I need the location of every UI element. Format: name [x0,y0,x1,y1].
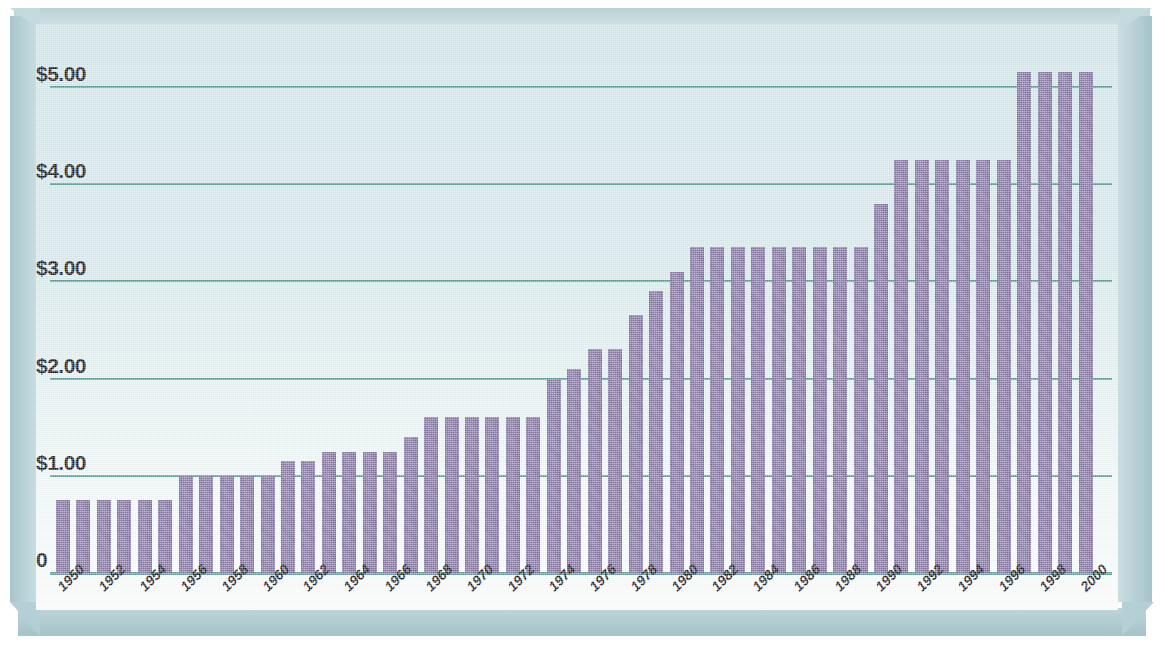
bar [506,417,520,573]
bar [915,160,929,573]
bar [240,476,254,573]
bar [261,476,275,573]
frame-bevel-right [1118,16,1152,602]
bar [445,417,459,573]
bar [97,500,111,573]
bar [874,204,888,573]
bar [608,349,622,573]
bar [997,160,1011,573]
bar [424,417,438,573]
bar [792,247,806,573]
bar [281,461,295,573]
bar [710,247,724,573]
bar [485,417,499,573]
bar [588,349,602,573]
bar [342,452,356,574]
bar [833,247,847,573]
bar [1058,72,1072,573]
bar [363,452,377,574]
bar [813,247,827,573]
bar [894,160,908,573]
bar [956,160,970,573]
bar [649,291,663,573]
chart-frame: $5.00$4.00$3.00$2.00$1.000 1950195219541… [0,8,1164,642]
bar [138,500,152,573]
bar [383,452,397,574]
bar [547,379,561,573]
bar [772,247,786,573]
bar [179,476,193,573]
bar [1017,72,1031,573]
bars-group [36,24,1118,610]
bar [526,417,540,573]
bar [1038,72,1052,573]
chart-plot-area: $5.00$4.00$3.00$2.00$1.000 1950195219541… [36,24,1118,610]
bar [301,461,315,573]
bar [935,160,949,573]
bar [690,247,704,573]
bar [158,500,172,573]
bar [854,247,868,573]
bar [117,500,131,573]
bar [731,247,745,573]
bar [76,500,90,573]
bar [322,452,336,574]
bar [220,476,234,573]
bar [670,272,684,573]
bar [976,160,990,573]
frame-bevel-left [10,16,36,602]
bar [56,500,70,573]
bar [465,417,479,573]
bar [751,247,765,573]
frame-bevel-bottom [18,608,1146,636]
bar [404,437,418,573]
bar [199,476,213,573]
bar [1079,72,1093,573]
bar [629,315,643,573]
bar [567,369,581,573]
